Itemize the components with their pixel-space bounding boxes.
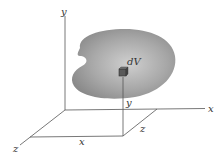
z-dimension-label: z [139, 123, 146, 134]
x-axis [65, 109, 205, 111]
y-axis-label: y [60, 6, 67, 17]
x-axis-label: x [208, 103, 214, 114]
y-dimension-label: y [125, 97, 132, 108]
z-axis-label: z [12, 143, 19, 154]
x-dimension-label: x [79, 136, 85, 147]
body-shape [72, 29, 175, 99]
diagram-canvas: y x z dV y x z [0, 0, 222, 166]
element-label: dV [127, 56, 142, 67]
x-dimension-line [30, 136, 123, 137]
volume-element-cube [119, 67, 128, 76]
z-axis [20, 110, 65, 145]
